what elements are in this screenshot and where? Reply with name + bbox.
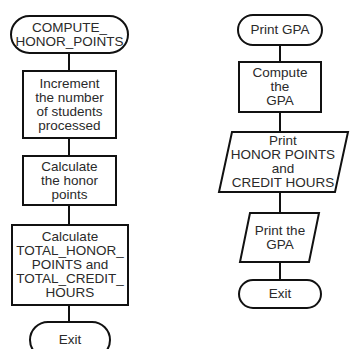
left-step1-label: Increment the number of students process… xyxy=(23,71,116,138)
right-output1-label: Print HONOR POINTS and CREDIT HOURS xyxy=(222,132,344,192)
left-start-label: COMPUTE_ HONOR_POINTS xyxy=(11,16,128,53)
right-output2-label: Print the GPA xyxy=(244,213,316,262)
right-step1-label: Compute the GPA xyxy=(239,62,321,112)
left-step2-label: Calculate the honor points xyxy=(23,156,116,205)
right-end-label: Exit xyxy=(239,280,321,308)
right-start-label: Print GPA xyxy=(238,15,322,45)
left-step3-label: Calculate TOTAL_HONOR_ POINTS and TOTAL_… xyxy=(12,225,128,305)
left-end-label: Exit xyxy=(30,322,110,349)
